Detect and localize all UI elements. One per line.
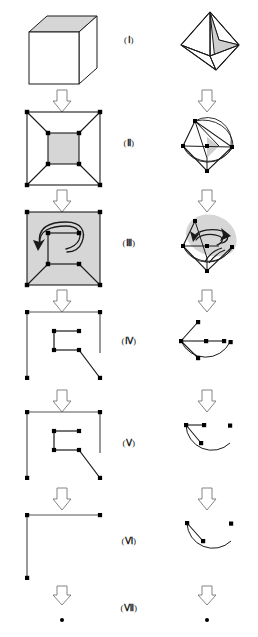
stage-label-VI-num: Ⅵ [125, 536, 133, 546]
stage-2-cube-planar-graph [25, 110, 102, 187]
stage-3-cube-contraction [25, 210, 102, 287]
stage-label-VII-num: Ⅶ [124, 603, 134, 613]
stage-3-octahedron-contraction [181, 215, 237, 273]
stage-label-II-close: ) [131, 138, 135, 148]
stage-label-VII: (Ⅶ) [94, 603, 164, 613]
stage-label-II: (Ⅱ) [94, 138, 164, 148]
stage-label-V: (Ⅴ) [94, 438, 164, 448]
stage-label-IV-num: Ⅳ [125, 336, 133, 346]
arrow-right-2 [198, 190, 216, 212]
arrow-right-1 [198, 90, 216, 112]
stage-label-VI: (Ⅵ) [94, 536, 164, 546]
stage-5-cube-tree [25, 410, 102, 480]
arrow-left-3 [53, 290, 71, 312]
stage-7-left-single-vertex [60, 618, 64, 622]
stage-label-I: (Ⅰ) [94, 35, 164, 45]
stage-label-III-close: ) [132, 238, 136, 248]
arrow-left-1 [53, 90, 71, 112]
stage-6-cube-tree [25, 513, 102, 580]
arrow-left-5 [53, 488, 71, 510]
stage-1-octahedron-solid [181, 12, 239, 70]
arrow-right-6 [198, 586, 216, 605]
stage-6-octahedron-tree [185, 521, 233, 548]
stage-1-cube-solid [29, 16, 97, 84]
arrow-right-4 [198, 390, 216, 412]
stage-2-octahedron-planar-graph [181, 118, 234, 173]
stage-label-I-close: ) [131, 35, 135, 45]
arrow-left-2 [53, 190, 71, 212]
stage-label-VII-close: ) [134, 603, 138, 613]
stage-label-IV: (Ⅳ) [94, 336, 164, 346]
stage-label-III: (Ⅲ) [94, 238, 164, 248]
arrow-right-5 [198, 488, 216, 510]
stage-4-octahedron-tree [179, 320, 233, 360]
stage-label-V-close: ) [132, 438, 136, 448]
stage-label-IV-close: ) [133, 336, 137, 346]
stage-4-cube-tree [25, 310, 102, 380]
stage-label-VI-close: ) [133, 536, 137, 546]
arrow-left-4 [53, 390, 71, 412]
stage-5-octahedron-tree [184, 423, 232, 450]
stage-7-right-single-vertex [205, 618, 209, 622]
arrow-left-6 [53, 586, 71, 605]
arrow-right-3 [198, 290, 216, 312]
